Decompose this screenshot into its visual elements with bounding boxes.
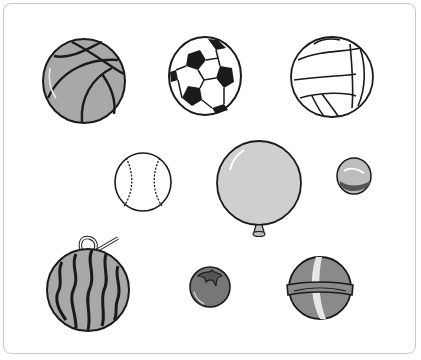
watermelon-image: watermelon [46, 232, 132, 332]
striped-ball-icon [286, 255, 354, 321]
tomato-image: tomato [188, 264, 232, 308]
basketball-image: basketball [42, 38, 126, 124]
volleyball-image: volleyball [290, 36, 374, 118]
volleyball-icon [290, 36, 374, 118]
basketball-icon [42, 38, 126, 124]
watermelon-icon [46, 232, 132, 332]
soccer-ball-icon [168, 36, 242, 116]
marble-icon [336, 157, 372, 195]
marble-image: marble [336, 157, 372, 195]
baseball-image: baseball [114, 152, 172, 212]
baseball-icon [114, 152, 172, 212]
tomato-icon [188, 264, 232, 308]
striped-ball-image: striped ball [286, 255, 354, 321]
balloon-image: balloon [216, 140, 302, 240]
balloon-icon [216, 140, 302, 240]
soccer-ball-image: soccer ball [168, 36, 242, 116]
